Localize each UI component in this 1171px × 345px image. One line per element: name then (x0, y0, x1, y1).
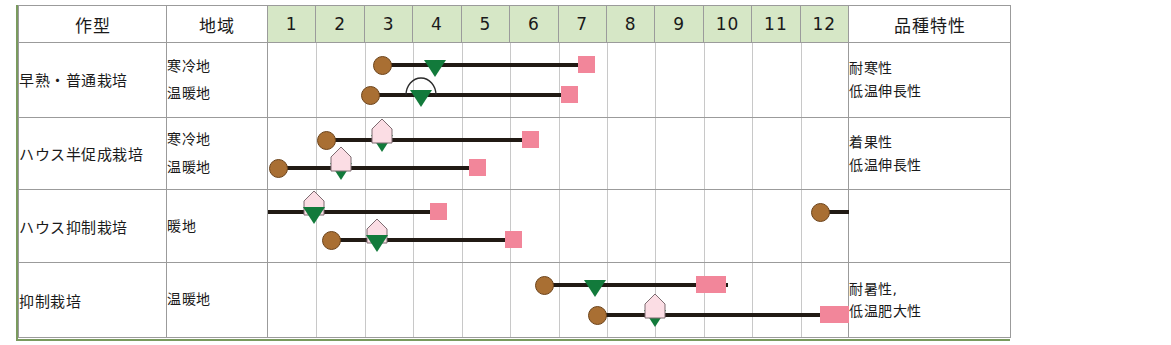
table-row: 抑制栽培温暖地耐暑性,低温肥大性 (19, 263, 1011, 338)
month-header-2: 2 (315, 6, 363, 42)
header-traits: 品種特性 (849, 6, 1011, 43)
timeline-bar (597, 313, 849, 317)
month-gridline (510, 43, 511, 117)
greenhouse-icon (330, 146, 352, 172)
cell-crop-type: ハウス半促成栽培 (19, 117, 167, 190)
bottom-border-accent (18, 339, 1010, 341)
month-gridline (510, 190, 511, 262)
month-header-6: 6 (509, 6, 557, 42)
month-gridline (704, 190, 705, 262)
cell-chart-row-0 (268, 43, 849, 118)
cell-crop-type: 抑制栽培 (19, 263, 167, 338)
month-gridline (413, 190, 414, 262)
month-gridline (752, 190, 753, 262)
month-gridline (752, 118, 753, 190)
plot-area (268, 43, 848, 117)
month-gridline (413, 118, 414, 190)
header-crop-type: 作型 (19, 6, 167, 43)
timeline-bar (278, 166, 481, 170)
month-gridline (559, 263, 560, 337)
greenhouse-icon (371, 118, 393, 144)
trait-label: 着果性 (849, 131, 1010, 153)
month-gridline (510, 263, 511, 337)
month-gridline (462, 43, 463, 117)
table-row: 早熟・普通栽培寒冷地温暖地耐寒性低温伸長性 (19, 43, 1011, 118)
cell-chart-row-1 (268, 117, 849, 190)
harvest-square-icon (561, 86, 578, 103)
cell-traits: 耐暑性,低温肥大性 (849, 263, 1011, 338)
trait-label: 低温伸長性 (849, 154, 1010, 176)
schedule-table: 作型 地域 123456789101112 品種特性 早熟・普通栽培寒冷地温暖地… (18, 5, 1011, 338)
trait-label: 耐暑性, (849, 278, 1010, 300)
month-gridline (462, 118, 463, 190)
planting-triangle-icon (303, 207, 325, 224)
month-gridline (365, 263, 366, 337)
harvest-square-icon (820, 306, 849, 323)
region-label: 寒冷地 (167, 126, 267, 153)
month-gridline (607, 190, 608, 262)
region-label: 温暖地 (167, 286, 267, 313)
harvest-square-icon (696, 276, 725, 293)
header-months: 123456789101112 (268, 6, 849, 43)
month-header-3: 3 (364, 6, 412, 42)
month-gridline (365, 43, 366, 117)
trait-label: 耐寒性 (849, 57, 1010, 79)
timeline-bar (326, 138, 534, 142)
header-region: 地域 (167, 6, 268, 43)
month-gridline (655, 190, 656, 262)
month-gridline (316, 263, 317, 337)
month-gridline (704, 43, 705, 117)
timeline-bar (382, 63, 588, 67)
trait-label: 低温肥大性 (849, 300, 1010, 322)
month-gridline (607, 43, 608, 117)
month-header-7: 7 (558, 6, 606, 42)
month-gridline (655, 43, 656, 117)
cell-chart-row-2 (268, 190, 849, 263)
greenhouse-icon (644, 293, 666, 319)
cell-region: 温暖地 (167, 263, 268, 338)
month-gridline (801, 263, 802, 337)
month-gridline (752, 263, 753, 337)
month-gridline (559, 118, 560, 190)
month-gridline (462, 263, 463, 337)
sowing-dot-icon (361, 86, 380, 105)
sowing-dot-icon (322, 231, 341, 250)
month-gridline (607, 118, 608, 190)
table-body: 早熟・普通栽培寒冷地温暖地耐寒性低温伸長性ハウス半促成栽培寒冷地温暖地着果性低温… (19, 43, 1011, 338)
month-gridline (704, 118, 705, 190)
month-gridline (365, 118, 366, 190)
timeline-bar (268, 210, 442, 214)
region-label: 温暖地 (167, 154, 267, 181)
month-gridline (607, 263, 608, 337)
sowing-dot-icon (588, 306, 607, 325)
month-gridline (316, 118, 317, 190)
cell-region: 寒冷地温暖地 (167, 43, 268, 118)
harvest-square-icon (469, 159, 486, 176)
region-label: 温暖地 (167, 80, 267, 107)
cell-crop-type: ハウス抑制栽培 (19, 190, 167, 263)
month-gridline (752, 43, 753, 117)
month-gridline (462, 190, 463, 262)
month-header-8: 8 (606, 6, 654, 42)
month-gridline (801, 43, 802, 117)
table-row: ハウス半促成栽培寒冷地温暖地着果性低温伸長性 (19, 117, 1011, 190)
sowing-dot-icon (269, 159, 288, 178)
sowing-dot-icon (811, 203, 830, 222)
timeline-bar (331, 238, 520, 242)
month-gridline (510, 118, 511, 190)
cell-traits (849, 190, 1011, 263)
month-gridline (316, 43, 317, 117)
month-header-5: 5 (461, 6, 509, 42)
region-label: 暖地 (167, 213, 267, 240)
cell-region: 暖地 (167, 190, 268, 263)
cell-chart-row-3 (268, 263, 849, 338)
month-header-11: 11 (751, 6, 799, 42)
plot-area (268, 190, 848, 262)
harvest-square-icon (505, 231, 522, 248)
month-header-10: 10 (703, 6, 751, 42)
month-header-4: 4 (412, 6, 460, 42)
harvest-square-icon (578, 56, 595, 73)
month-header-9: 9 (654, 6, 702, 42)
month-header-12: 12 (800, 6, 848, 42)
month-gridline (413, 263, 414, 337)
